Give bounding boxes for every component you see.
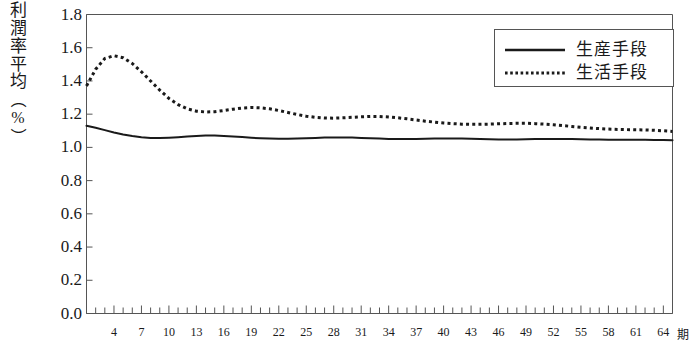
x-axis-tick-label: 55 <box>575 325 587 340</box>
x-axis-tick-label: 34 <box>383 325 395 340</box>
x-axis-tick-label: 61 <box>630 325 642 340</box>
x-axis-tick-label: 43 <box>465 325 477 340</box>
legend-label-1: 生活手段 <box>576 58 648 83</box>
x-axis-tick-label: 16 <box>218 325 230 340</box>
x-axis-tick-label: 46 <box>493 325 505 340</box>
x-axis-tick-label: 13 <box>190 325 202 340</box>
chart-legend: 生産手段 生活手段 <box>494 29 674 87</box>
x-axis-tick-label: 25 <box>300 325 312 340</box>
x-axis-tick-label: 49 <box>520 325 532 340</box>
x-axis-tick-label: 28 <box>328 325 340 340</box>
x-axis-tick-label: 64 <box>657 325 669 340</box>
legend-entry-1: 生活手段 <box>503 59 665 82</box>
x-axis-tick-label: 31 <box>355 325 367 340</box>
x-axis-tick-label: 7 <box>138 325 144 340</box>
x-axis-unit-label: 期 <box>677 325 689 343</box>
legend-swatch-solid-icon <box>503 42 567 54</box>
x-axis-tick-label: 40 <box>438 325 450 340</box>
legend-swatch-dotted-icon <box>503 65 567 77</box>
x-axis-tick-label: 37 <box>410 325 422 340</box>
x-axis-tick-label: 52 <box>547 325 559 340</box>
legend-label-0: 生産手段 <box>576 35 648 60</box>
x-axis-tick-label: 10 <box>163 325 175 340</box>
x-axis-tick-label: 19 <box>245 325 257 340</box>
x-axis-tick-label: 58 <box>602 325 614 340</box>
x-axis-tick-label: 22 <box>273 325 285 340</box>
x-axis-tick-label: 4 <box>111 325 117 340</box>
legend-entry-0: 生産手段 <box>503 36 665 59</box>
